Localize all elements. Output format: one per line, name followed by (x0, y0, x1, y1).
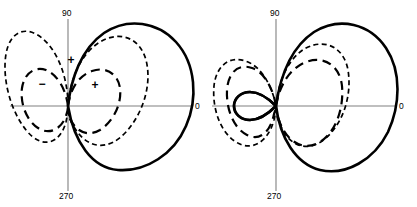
right-polar-plot-svg: 90 270 0 (208, 0, 417, 207)
sign-marker-minus: − (38, 77, 45, 91)
left-polar-plot-svg: + − + 90 270 0 (0, 0, 209, 207)
sign-marker-plus-upper: + (67, 53, 74, 67)
axis-label-90: 90 (62, 8, 72, 18)
axis-label-270: 270 (267, 191, 281, 201)
left-polar-plot-panel: + − + 90 270 0 (0, 0, 209, 207)
axis-label-0: 0 (195, 101, 200, 111)
element-pattern-fine-dashed-right-circle (68, 36, 148, 145)
right-polar-plot-panel: 90 270 0 (208, 0, 417, 207)
element-pattern-coarse-dashed-right-circle (276, 60, 342, 146)
axis-label-270: 270 (59, 191, 73, 201)
axis-label-90: 90 (270, 8, 280, 18)
axis-label-0: 0 (399, 101, 404, 111)
resultant-cardioid-solid (68, 23, 193, 170)
sign-marker-plus-lower: + (91, 78, 98, 92)
resultant-pattern-solid (234, 24, 398, 172)
polar-pattern-figure: + − + 90 270 0 90 270 0 (0, 0, 417, 207)
